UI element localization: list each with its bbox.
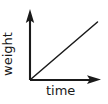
weight-vs-time-graph: weight time	[0, 0, 108, 104]
y-axis-label-text: weight	[1, 32, 14, 76]
x-axis-label: time	[46, 84, 75, 97]
y-axis-label: weight	[0, 28, 14, 80]
trend-line	[31, 22, 98, 80]
